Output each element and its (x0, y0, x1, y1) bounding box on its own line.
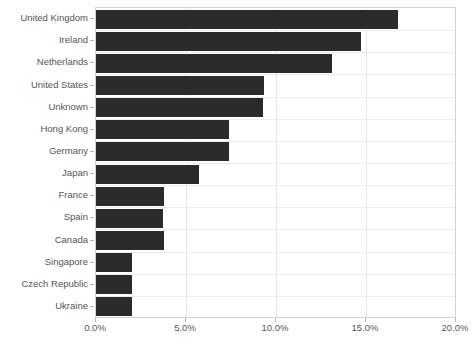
plot-area (95, 7, 456, 318)
category-tick-mark (90, 18, 94, 19)
x-axis-tick-label: 15.0% (343, 322, 387, 333)
category-tick-mark (90, 62, 94, 63)
x-axis-tick-mark (185, 318, 186, 322)
x-axis-tick-mark (365, 318, 366, 322)
gridline-horizontal (96, 52, 455, 53)
category-tick-mark (90, 262, 94, 263)
category-tick-mark (90, 306, 94, 307)
category-tick-mark (90, 240, 94, 241)
category-label: United Kingdom (2, 13, 88, 23)
bar (96, 165, 199, 184)
bar (96, 98, 263, 117)
gridline-horizontal (96, 252, 455, 253)
gridline-horizontal (96, 274, 455, 275)
category-label: Hong Kong (2, 124, 88, 134)
bar (96, 120, 229, 139)
bar (96, 187, 164, 206)
bar (96, 209, 163, 228)
category-tick-mark (90, 107, 94, 108)
category-tick-mark (90, 217, 94, 218)
gridline-horizontal (96, 229, 455, 230)
category-label: Ireland (2, 35, 88, 45)
category-label: Ukraine (2, 301, 88, 311)
bar (96, 297, 132, 316)
bar (96, 253, 132, 272)
category-label: United States (2, 80, 88, 90)
x-axis-tick-label: 20.0% (433, 322, 473, 333)
gridline-horizontal (96, 207, 455, 208)
gridline-horizontal (96, 296, 455, 297)
gridline-horizontal (96, 74, 455, 75)
bar (96, 32, 361, 51)
category-label: France (2, 190, 88, 200)
category-label: Germany (2, 146, 88, 156)
category-tick-mark (90, 85, 94, 86)
category-label: Netherlands (2, 57, 88, 67)
category-label: Japan (2, 168, 88, 178)
bar (96, 76, 264, 95)
bar (96, 275, 132, 294)
category-tick-mark (90, 195, 94, 196)
bar (96, 142, 229, 161)
category-tick-mark (90, 151, 94, 152)
x-axis-tick-label: 5.0% (163, 322, 207, 333)
category-label: Singapore (2, 257, 88, 267)
x-axis-tick-mark (455, 318, 456, 322)
bar (96, 10, 398, 29)
bar (96, 231, 164, 250)
category-label: Czech Republic (2, 279, 88, 289)
x-axis-tick-label: 10.0% (253, 322, 297, 333)
category-tick-mark (90, 173, 94, 174)
category-tick-mark (90, 129, 94, 130)
category-tick-mark (90, 40, 94, 41)
category-label: Canada (2, 235, 88, 245)
x-axis-tick-label: 0.0% (73, 322, 117, 333)
x-axis-tick-mark (275, 318, 276, 322)
category-label: Unknown (2, 102, 88, 112)
category-tick-mark (90, 284, 94, 285)
bar (96, 54, 332, 73)
x-axis-tick-mark (95, 318, 96, 322)
category-label: Spain (2, 212, 88, 222)
